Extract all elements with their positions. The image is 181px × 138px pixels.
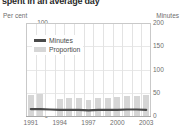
legend-label-proportion: Proportion [49, 46, 80, 53]
plot-frame-top [26, 23, 151, 24]
line-swatch-icon [34, 39, 46, 42]
chart-figure: spent in an average day Per cent Minutes… [0, 0, 181, 138]
x-axis-tick: 2003 [139, 119, 153, 126]
right-axis-tick: 150 [153, 42, 177, 49]
x-axis-tick: 1991 [24, 119, 38, 126]
plot-frame-right [150, 23, 151, 117]
right-axis-tick: 200 [153, 19, 177, 26]
plot-frame-bottom [26, 116, 151, 117]
right-axis-tick: 0 [153, 112, 177, 119]
x-axis-tick: 2000 [110, 119, 124, 126]
chart-title: spent in an average day [2, 0, 99, 6]
x-axis-tick: 1997 [81, 119, 95, 126]
right-axis-tick: 50 [153, 89, 177, 96]
bar-swatch-icon [34, 47, 46, 52]
right-axis-caption: Minutes [156, 12, 179, 19]
x-axis-tick: 1994 [52, 119, 66, 126]
right-axis-tick: 100 [153, 66, 177, 73]
chart-legend: Minutes Proportion [32, 35, 83, 55]
plot-frame-left [26, 23, 27, 117]
legend-item-minutes: Minutes [34, 36, 80, 45]
legend-label-minutes: Minutes [49, 37, 73, 44]
minutes-line-path [31, 109, 146, 110]
left-axis-caption: Per cent [3, 12, 27, 19]
legend-item-proportion: Proportion [34, 45, 80, 54]
